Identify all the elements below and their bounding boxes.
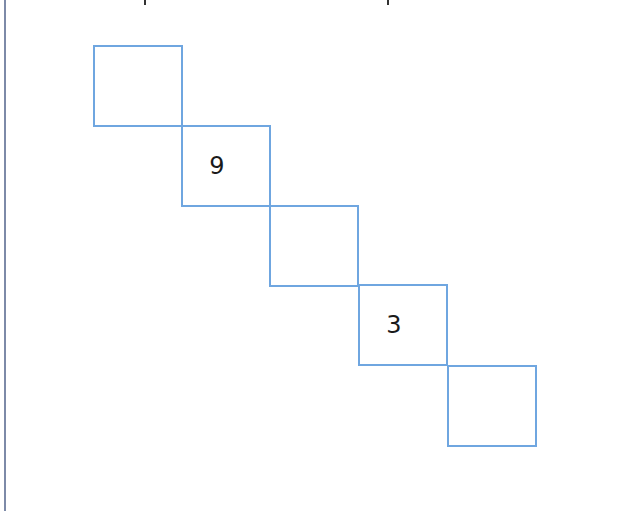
clipped-text-fragment (387, 0, 389, 5)
box-4[interactable]: 3 (358, 284, 448, 366)
box-2[interactable]: 9 (181, 125, 271, 207)
box-2-value: 9 (209, 154, 224, 178)
box-4-value: 3 (386, 313, 401, 337)
box-3[interactable] (269, 205, 359, 287)
box-5[interactable] (447, 365, 537, 447)
page-left-border (4, 0, 6, 511)
box-1[interactable] (93, 45, 183, 127)
clipped-text-fragment (144, 0, 146, 5)
